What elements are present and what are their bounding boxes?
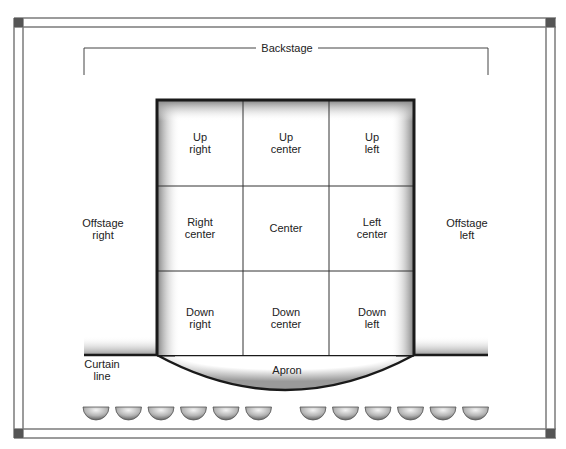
- footlight-icon: [116, 407, 142, 420]
- cell-down-center: Downcenter: [271, 306, 302, 330]
- curtain-line-label: Curtain line: [84, 358, 119, 382]
- corner-br: [546, 429, 555, 438]
- footlight-icon: [333, 407, 359, 420]
- apron-label: Apron: [272, 364, 301, 376]
- footlight-icon: [148, 407, 174, 420]
- cell-up-center: Upcenter: [271, 131, 302, 155]
- cell-up-right: Upright: [189, 131, 210, 155]
- corner-tl: [14, 18, 23, 27]
- offstage-left-label: Offstage left: [446, 217, 487, 241]
- footlight-icon: [300, 407, 326, 420]
- corner-tr: [546, 18, 555, 27]
- footlight-icon: [213, 407, 239, 420]
- footlight-icon: [463, 407, 489, 420]
- offstage-right-label: Offstage right: [82, 217, 123, 241]
- footlights: [83, 407, 489, 420]
- cell-down-left: Downleft: [358, 306, 386, 330]
- footlight-icon: [181, 407, 207, 420]
- backstage-label: Backstage: [257, 42, 316, 54]
- cell-left-center: Leftcenter: [357, 216, 388, 240]
- footlight-icon: [365, 407, 391, 420]
- cell-down-right: Downright: [186, 306, 214, 330]
- footlight-icon: [398, 407, 424, 420]
- footlight-icon: [246, 407, 272, 420]
- cell-right-center: Rightcenter: [185, 216, 216, 240]
- footlight-icon: [430, 407, 456, 420]
- footlight-icon: [83, 407, 109, 420]
- corner-bl: [14, 429, 23, 438]
- cell-up-left: Upleft: [365, 131, 380, 155]
- cell-center: Center: [269, 222, 302, 234]
